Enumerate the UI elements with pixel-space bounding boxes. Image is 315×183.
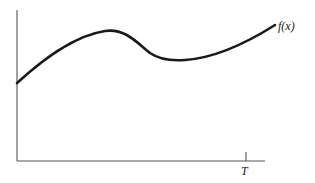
function-plot: f(x) T (0, 0, 315, 183)
x-tick-label-T: T (241, 164, 249, 178)
curve-f-of-x (17, 25, 275, 83)
curve-label: f(x) (278, 19, 295, 33)
